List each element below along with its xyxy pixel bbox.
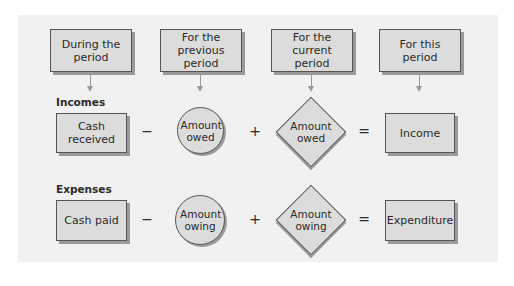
down-arrow-icon: [419, 73, 420, 87]
term-amount-owing-previous: Amount owing: [175, 195, 225, 245]
down-arrow-icon: [311, 73, 312, 87]
minus-operator: −: [139, 123, 155, 139]
term-label: Amount owing: [180, 208, 220, 232]
equals-operator: =: [356, 211, 372, 227]
header-current-period: For the current period: [271, 29, 353, 72]
term-label: Amount owed: [181, 119, 221, 143]
result-expenditure: Expenditure: [385, 200, 455, 241]
term-cash-received: Cash received: [56, 113, 127, 153]
plus-operator: +: [247, 123, 263, 139]
header-this-period: For this period: [379, 29, 461, 72]
header-label: For the previous period: [161, 31, 241, 70]
term-label: Amount owed: [289, 120, 333, 144]
term-label: Cash received: [67, 120, 117, 146]
term-amount-owed-previous: Amount owed: [177, 107, 224, 154]
header-label: For the current period: [274, 31, 350, 70]
header-during-period: During the period: [50, 29, 132, 72]
equals-operator: =: [356, 123, 372, 139]
row-title-expenses: Expenses: [56, 183, 112, 195]
down-arrow-icon: [200, 73, 201, 87]
header-label: For this period: [392, 38, 448, 64]
minus-operator: −: [139, 211, 155, 227]
header-previous-period: For the previous period: [160, 29, 242, 72]
row-title-incomes: Incomes: [56, 96, 105, 108]
term-amount-owed-current: Amount owed: [276, 97, 346, 167]
header-label: During the period: [59, 38, 123, 64]
term-cash-paid: Cash paid: [56, 200, 127, 241]
term-amount-owing-current: Amount owing: [276, 185, 346, 255]
plus-operator: +: [247, 211, 263, 227]
term-label: Amount owing: [289, 208, 333, 232]
result-income: Income: [385, 113, 455, 153]
down-arrow-icon: [90, 73, 91, 87]
